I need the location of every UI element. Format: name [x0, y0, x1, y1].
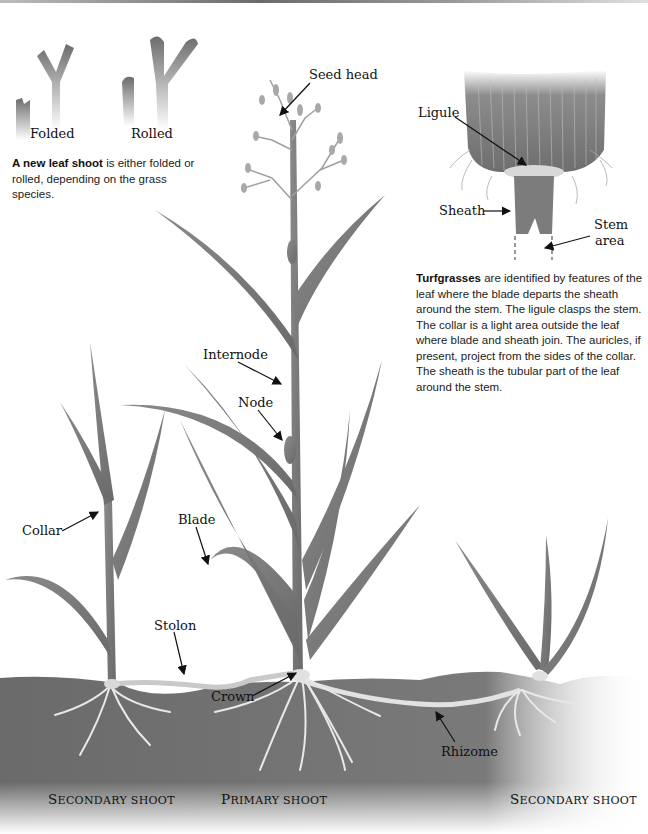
- left-secondary-shoot: [5, 342, 165, 686]
- label-crown: Crown: [211, 690, 255, 703]
- ligule-detail-icon: [450, 70, 612, 260]
- leaf-shoot-caption-bold: A new leaf shoot: [12, 157, 103, 169]
- label-node: Node: [238, 396, 273, 409]
- rolled-shoot-icon: [122, 36, 198, 130]
- title-rest: rimary shoot: [230, 794, 327, 807]
- leaf-shoot-caption: A new leaf shoot is either folded or rol…: [12, 156, 212, 203]
- label-internode: Internode: [203, 348, 268, 361]
- grass-plant-illustration: [0, 0, 648, 834]
- label-collar: Collar: [22, 524, 62, 537]
- label-ligule: Ligule: [418, 106, 459, 119]
- label-sheath: Sheath: [439, 204, 485, 217]
- label-rhizome: Rhizome: [441, 745, 498, 758]
- label-stem-area-line1: Stem: [594, 218, 628, 231]
- title-first-letter: S: [510, 791, 520, 807]
- turfgrass-caption-bold: Turfgrasses: [416, 272, 481, 284]
- title-rest: econdary shoot: [58, 794, 175, 807]
- turfgrass-caption-text: are identified by features of the leaf w…: [416, 272, 642, 393]
- title-first-letter: S: [48, 791, 58, 807]
- title-rest: econdary shoot: [520, 794, 637, 807]
- label-folded: Folded: [30, 127, 75, 140]
- label-rolled: Rolled: [131, 127, 173, 140]
- right-secondary-shoot: [455, 518, 608, 675]
- title-left-secondary-shoot: Secondary shoot: [48, 791, 175, 807]
- title-first-letter: P: [221, 791, 230, 807]
- title-right-secondary-shoot: Secondary shoot: [510, 791, 637, 807]
- title-primary-shoot: Primary shoot: [221, 791, 327, 807]
- label-blade: Blade: [178, 513, 215, 526]
- label-stolon: Stolon: [154, 619, 196, 632]
- turfgrass-caption: Turfgrasses are identified by features o…: [416, 271, 648, 395]
- label-stem-area-line2: area: [595, 234, 624, 247]
- label-seed-head: Seed head: [309, 68, 378, 81]
